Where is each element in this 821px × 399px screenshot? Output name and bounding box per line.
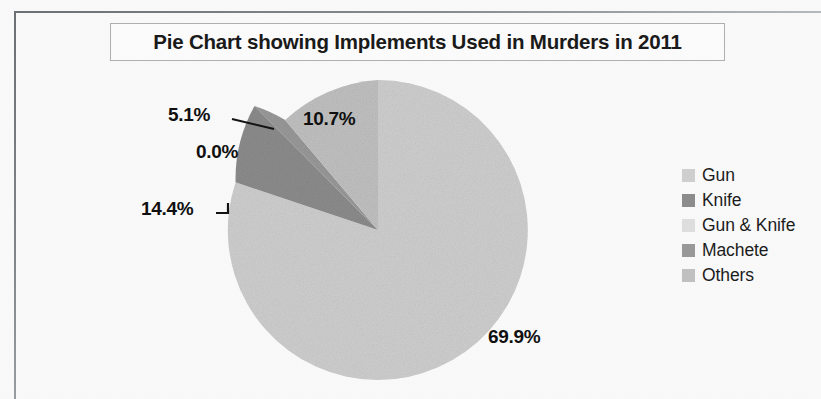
legend-swatch-others <box>682 269 695 282</box>
leader-line-knife <box>216 203 228 213</box>
frame-top-rule <box>14 11 821 13</box>
legend-item-knife: Knife <box>682 188 795 213</box>
legend-item-others: Others <box>682 263 795 288</box>
data-label-gun: 69.9% <box>488 326 540 348</box>
legend-item-machete: Machete <box>682 238 795 263</box>
data-label-knife: 14.4% <box>141 198 193 220</box>
legend-label-others: Others <box>702 265 754 286</box>
legend-swatch-gun-knife <box>682 219 695 232</box>
frame-left-rule <box>14 11 16 399</box>
data-label-others: 10.7% <box>303 108 355 130</box>
legend-label-machete: Machete <box>702 240 768 261</box>
legend-swatch-machete <box>682 244 695 257</box>
chart-title-box: Pie Chart showing Implements Used in Mur… <box>110 23 725 61</box>
legend-item-gun: Gun <box>682 163 795 188</box>
legend-label-gun-knife: Gun & Knife <box>702 215 795 236</box>
legend-swatch-knife <box>682 194 695 207</box>
legend-label-knife: Knife <box>702 190 741 211</box>
legend-swatch-gun <box>682 169 695 182</box>
page-title: Pie Chart showing Implements Used in Mur… <box>153 30 681 54</box>
chart-image: Pie Chart showing Implements Used in Mur… <box>0 0 821 399</box>
data-label-gun-knife: 0.0% <box>196 141 238 163</box>
legend-label-gun: Gun <box>702 165 735 186</box>
chart-legend: Gun Knife Gun & Knife Machete Others <box>682 163 795 288</box>
legend-item-gun-knife: Gun & Knife <box>682 213 795 238</box>
data-label-machete: 5.1% <box>168 104 210 126</box>
